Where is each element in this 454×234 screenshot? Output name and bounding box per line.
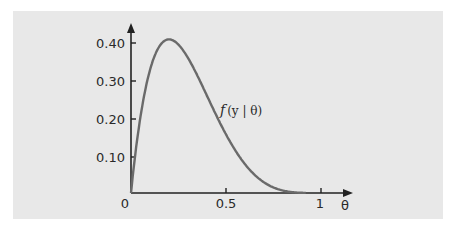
y-tick-label-010: 0.10 <box>96 150 125 165</box>
y-axis-arrow-icon <box>127 23 135 33</box>
y-tick-label-040: 0.40 <box>96 36 125 51</box>
y-tick-label-020: 0.20 <box>96 112 125 127</box>
origin-label: 0 <box>121 196 129 211</box>
x-tick-label-1: 1 <box>316 196 324 211</box>
y-tick-label-030: 0.30 <box>96 74 125 89</box>
x-axis-arrow-icon <box>343 189 353 197</box>
x-axis-label: θ <box>341 198 349 213</box>
curve-label: f(y | θ) <box>219 102 262 118</box>
density-curve <box>131 39 306 193</box>
x-tick-label-05: 0.5 <box>216 196 237 211</box>
chart-svg: 0.40 0.30 0.20 0.10 0 0.5 1 θ f(y | θ) <box>0 0 454 234</box>
